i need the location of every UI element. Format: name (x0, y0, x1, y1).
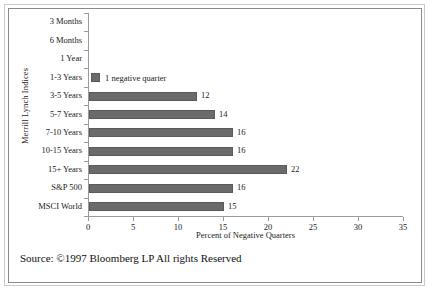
category-label: MSCI World (10, 202, 82, 211)
x-axis-tick (178, 217, 179, 221)
chart-figure: Merrill Lynch Indices 3 Months6 Months1 … (0, 0, 429, 290)
chart-legend: 1 negative quarter (91, 73, 166, 83)
x-axis-tick (403, 217, 404, 221)
bar (89, 184, 233, 193)
bar-value-label: 16 (237, 183, 246, 192)
bar-value-label: 22 (291, 165, 300, 174)
y-axis-tick (84, 142, 88, 143)
y-axis-tick (84, 50, 88, 51)
bar (89, 202, 224, 211)
y-axis-tick (84, 179, 88, 180)
legend-swatch-icon (91, 73, 100, 82)
x-axis-tick (88, 217, 89, 221)
chart-plot-container: Merrill Lynch Indices 3 Months6 Months1 … (9, 9, 420, 237)
bar-value-label: 16 (237, 146, 246, 155)
x-axis-tick (133, 217, 134, 221)
y-axis-tick (84, 68, 88, 69)
bar-value-label: 15 (228, 202, 237, 211)
x-axis-line (88, 216, 403, 217)
x-axis-tick (223, 217, 224, 221)
bar (89, 92, 197, 101)
category-label: 3 Months (10, 17, 82, 26)
category-label: 6 Months (10, 36, 82, 45)
bar (89, 165, 287, 174)
category-label: 15+ Years (10, 165, 82, 174)
y-axis-tick (84, 198, 88, 199)
x-axis-tick (358, 217, 359, 221)
bar (89, 110, 215, 119)
bar-value-label: 14 (219, 110, 228, 119)
x-axis-title: Percent of Negative Quarters (88, 230, 403, 240)
y-axis-tick (84, 161, 88, 162)
source-note: Source: ©1997 Bloomberg LP All rights Re… (20, 252, 242, 264)
bar-value-label: 16 (237, 128, 246, 137)
y-axis-tick (84, 13, 88, 14)
category-label: 7-10 Years (10, 128, 82, 137)
y-axis-tick (84, 87, 88, 88)
category-label: S&P 500 (10, 183, 82, 192)
y-axis-tick (84, 105, 88, 106)
y-axis-tick (84, 31, 88, 32)
category-label: 1-3 Years (10, 73, 82, 82)
y-axis-tick (84, 124, 88, 125)
x-axis-tick (313, 217, 314, 221)
bar (89, 147, 233, 156)
bar-value-label: 12 (201, 91, 210, 100)
bar (89, 128, 233, 137)
legend-label: 1 negative quarter (105, 73, 166, 83)
category-label: 3-5 Years (10, 91, 82, 100)
category-label: 5-7 Years (10, 110, 82, 119)
category-label: 10-15 Years (10, 146, 82, 155)
plot-area: 3 Months6 Months1 Year1-3 Years3-5 Years… (88, 13, 408, 216)
x-axis-tick (268, 217, 269, 221)
category-label: 1 Year (10, 54, 82, 63)
